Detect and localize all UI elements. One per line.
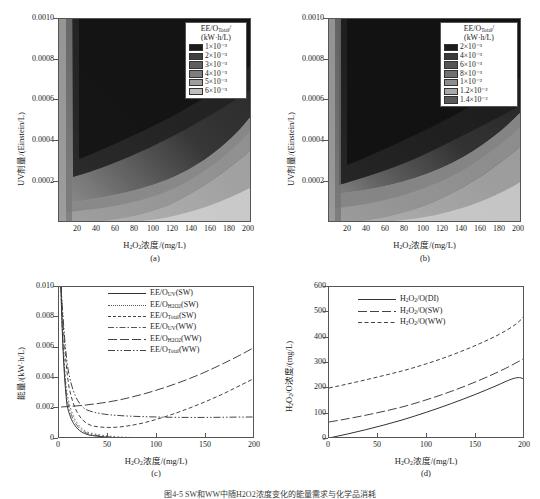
panel-d-xtick: 50 bbox=[362, 440, 392, 449]
legend-entry: H2O2/O(WW) bbox=[358, 317, 445, 328]
panel-a-xlabel: H2O2浓度/(mg/L) bbox=[58, 238, 251, 250]
legend-line-sample bbox=[108, 346, 146, 355]
legend-label: EE/OH2O2(WW) bbox=[150, 335, 202, 344]
legend-line-sample bbox=[108, 301, 146, 310]
panel-a-xtick: 200 bbox=[233, 224, 263, 233]
legend-swatch bbox=[189, 44, 203, 51]
legend-entry: 6×10⁻³ bbox=[189, 87, 243, 95]
legend-label: H2O2/O(SW) bbox=[400, 307, 442, 316]
panel-b-ytick: 0.0008 bbox=[284, 54, 324, 63]
panel-c-xtick: 50 bbox=[92, 440, 122, 449]
legend-entry: 3×10⁻³ bbox=[189, 61, 243, 69]
legend-entry: EE/OUV(SW) bbox=[108, 288, 202, 299]
panel-d-legend: H2O2/O(DI) H2O2/O(SW) H2O2/O(WW) bbox=[358, 294, 445, 328]
legend-entry: EE/OH2O2(WW) bbox=[108, 334, 202, 345]
panel-c-xlabel: H2O2浓度/(mg/L) bbox=[58, 454, 254, 466]
panel-b-xlabel: H2O2浓度/(mg/L) bbox=[328, 238, 521, 250]
panel-a-legend-title: EE/OTotal/ (kW·h/L) bbox=[189, 25, 243, 43]
legend-entry: EE/OTotal(SW) bbox=[108, 311, 202, 322]
panel-b-ylabel: UV剂量/(Einstein/L) bbox=[284, 112, 296, 186]
panel-a-tag: (a) bbox=[135, 253, 175, 263]
legend-swatch bbox=[444, 79, 458, 86]
panel-d: H2O2/O(DI) H2O2/O(SW) H2O2/O(WW) 600 500… bbox=[270, 272, 540, 496]
panel-c-tag: (c) bbox=[136, 468, 176, 478]
legend-label: EE/OUV(WW) bbox=[150, 323, 196, 332]
panel-b-ytick: 0.0010 bbox=[284, 13, 324, 22]
panel-b-tag: (b) bbox=[405, 253, 445, 263]
legend-swatch bbox=[444, 53, 458, 60]
panel-c: EE/OUV(SW) EE/OH2O2(SW) EE/OTotal(SW) EE… bbox=[0, 272, 270, 496]
panel-d-xlabel: H2O2浓度/(mg/L) bbox=[328, 454, 524, 466]
panel-a-ytick: 0.0008 bbox=[14, 54, 54, 63]
panel-d-xtick: 150 bbox=[460, 440, 490, 449]
legend-label: EE/OTotal(SW) bbox=[150, 312, 196, 321]
panel-a-ytick: 0.0010 bbox=[14, 13, 54, 22]
legend-entry: 1.4×10⁻² bbox=[444, 96, 514, 104]
legend-label: 1.4×10⁻² bbox=[460, 96, 488, 105]
panel-c-xtick: 200 bbox=[239, 440, 269, 449]
panel-c-ytick: 0.010 bbox=[14, 281, 54, 290]
panel-c-ylabel: 能量/(kW·h/L) bbox=[14, 347, 26, 400]
figure-caption: 图4-5 SW和WW中随H2O2浓度变化的能量需求与化学品消耗 bbox=[0, 488, 540, 499]
panel-d-xtick: 0 bbox=[313, 440, 343, 449]
panel-b-legend: EE/OTotal/ (kW·h/L) 2×10⁻³ 4×10⁻³ 6×10⁻³… bbox=[440, 22, 518, 107]
legend-swatch bbox=[444, 44, 458, 51]
legend-label: EE/OH2O2(SW) bbox=[150, 301, 198, 310]
panel-c-legend: EE/OUV(SW) EE/OH2O2(SW) EE/OTotal(SW) EE… bbox=[108, 288, 202, 356]
panel-a-legend: EE/OTotal/ (kW·h/L) 1×10⁻³ 2×10⁻³ 3×10⁻³… bbox=[185, 22, 247, 99]
legend-line-sample bbox=[358, 318, 396, 327]
legend-entry: H2O2/O(DI) bbox=[358, 294, 445, 305]
panel-d-xtick: 100 bbox=[411, 440, 441, 449]
legend-swatch bbox=[189, 70, 203, 77]
legend-line-sample bbox=[108, 312, 146, 321]
panel-c-ytick: 0.008 bbox=[14, 311, 54, 320]
panel-d-ylabel: H2O2/O浓度/(mg/L) bbox=[282, 341, 294, 412]
panel-b-xtick: 200 bbox=[503, 224, 533, 233]
panel-c-xtick: 0 bbox=[43, 440, 73, 449]
panel-d-xtick: 200 bbox=[509, 440, 539, 449]
panel-b-legend-title: EE/OTotal/ (kW·h/L) bbox=[444, 25, 514, 43]
legend-swatch bbox=[444, 70, 458, 77]
panel-d-ytick: 600 bbox=[286, 281, 326, 290]
legend-line-sample bbox=[108, 323, 146, 332]
legend-entry: EE/OUV(WW) bbox=[108, 322, 202, 333]
panel-d-ytick: 500 bbox=[286, 306, 326, 315]
legend-swatch bbox=[444, 88, 458, 95]
legend-line-sample bbox=[358, 307, 396, 316]
legend-label: EE/OUV(SW) bbox=[150, 289, 193, 298]
legend-entry: EE/OH2O2(SW) bbox=[108, 299, 202, 310]
legend-swatch bbox=[189, 88, 203, 95]
legend-entry: 6×10⁻³ bbox=[444, 61, 514, 69]
legend-swatch bbox=[189, 79, 203, 86]
legend-line-sample bbox=[108, 289, 146, 298]
legend-swatch bbox=[189, 61, 203, 68]
legend-entry: EE/OTotal(WW) bbox=[108, 345, 202, 356]
panel-d-tag: (d) bbox=[406, 468, 446, 478]
panel-b-ytick: 0.0006 bbox=[284, 94, 324, 103]
legend-line-sample bbox=[358, 295, 396, 304]
legend-label: H2O2/O(DI) bbox=[400, 295, 439, 304]
legend-line-sample bbox=[108, 335, 146, 344]
panel-a-ylabel: UV剂量/(Einstein/L) bbox=[14, 112, 26, 186]
panel-c-ytick: 0.002 bbox=[14, 402, 54, 411]
panel-a-ytick: 0.0006 bbox=[14, 94, 54, 103]
panel-b: EE/OTotal/ (kW·h/L) 2×10⁻³ 4×10⁻³ 6×10⁻³… bbox=[270, 0, 540, 272]
legend-label: EE/OTotal(WW) bbox=[150, 346, 199, 355]
legend-label: 6×10⁻³ bbox=[205, 87, 227, 96]
legend-entry: H2O2/O(SW) bbox=[358, 305, 445, 316]
panel-d-ytick: 400 bbox=[286, 332, 326, 341]
legend-swatch bbox=[189, 53, 203, 60]
legend-swatch bbox=[444, 96, 458, 103]
panel-c-xtick: 100 bbox=[141, 440, 171, 449]
legend-swatch bbox=[444, 61, 458, 68]
panel-a: EE/OTotal/ (kW·h/L) 1×10⁻³ 2×10⁻³ 3×10⁻³… bbox=[0, 0, 270, 272]
legend-label: H2O2/O(WW) bbox=[400, 318, 445, 327]
panel-c-xtick: 150 bbox=[190, 440, 220, 449]
